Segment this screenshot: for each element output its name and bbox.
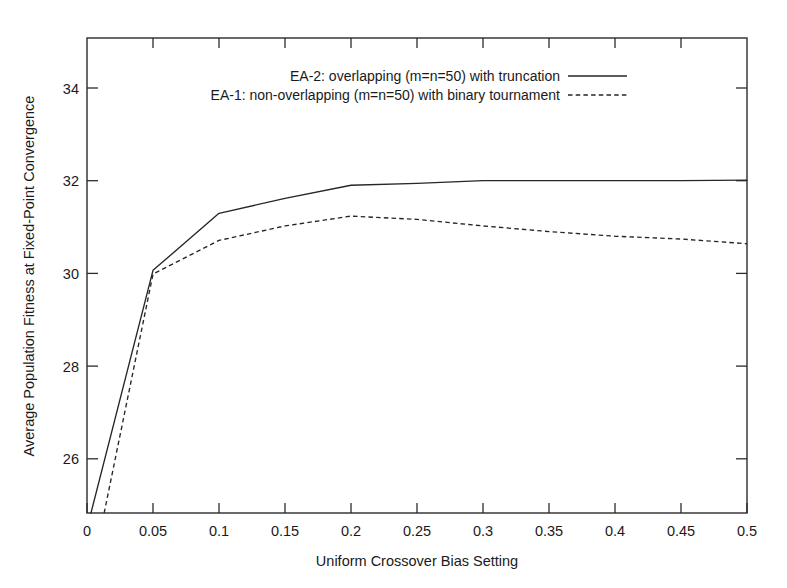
x-tick-label-0-2: 0.2: [341, 523, 361, 539]
x-axis-title: Uniform Crossover Bias Setting: [316, 553, 518, 569]
y-axis-ticks: [87, 88, 747, 459]
y-tick-label-30: 30: [63, 266, 79, 282]
chart-legend: EA-2: overlapping (m=n=50) with truncati…: [211, 68, 627, 103]
x-tick-label-0-5: 0.5: [737, 523, 757, 539]
x-tick-label-0-45: 0.45: [667, 523, 695, 539]
x-tick-label-0-3: 0.3: [473, 523, 493, 539]
legend-label-ea1: EA-1: non-overlapping (m=n=50) with bina…: [211, 87, 561, 103]
series-line-ea2: [91, 180, 747, 513]
chart-figure: 34 32 30 28 26: [0, 0, 787, 588]
y-axis-title: Average Population Fitness at Fixed-Poin…: [21, 96, 37, 457]
y-tick-label-28: 28: [63, 359, 79, 375]
y-axis-tick-labels: 34 32 30 28 26: [63, 81, 79, 468]
series-line-ea1: [104, 216, 747, 513]
x-tick-label-0-25: 0.25: [403, 523, 431, 539]
y-tick-label-26: 26: [63, 451, 79, 467]
x-tick-label-0: 0: [83, 523, 91, 539]
x-tick-label-0-05: 0.05: [139, 523, 167, 539]
x-tick-label-0-35: 0.35: [535, 523, 563, 539]
x-tick-label-0-4: 0.4: [605, 523, 625, 539]
y-tick-label-34: 34: [63, 81, 79, 97]
series-group: [91, 180, 747, 513]
chart-canvas: 34 32 30 28 26: [0, 0, 787, 588]
x-tick-label-0-15: 0.15: [271, 523, 299, 539]
y-tick-label-32: 32: [63, 173, 79, 189]
x-tick-label-0-1: 0.1: [209, 523, 229, 539]
legend-label-ea2: EA-2: overlapping (m=n=50) with truncati…: [290, 68, 560, 84]
x-axis-tick-labels: 0 0.05 0.1 0.15 0.2 0.25 0.3 0.35 0.4 0.…: [83, 523, 757, 539]
plot-frame: [87, 38, 747, 513]
x-axis-ticks: [87, 38, 747, 513]
